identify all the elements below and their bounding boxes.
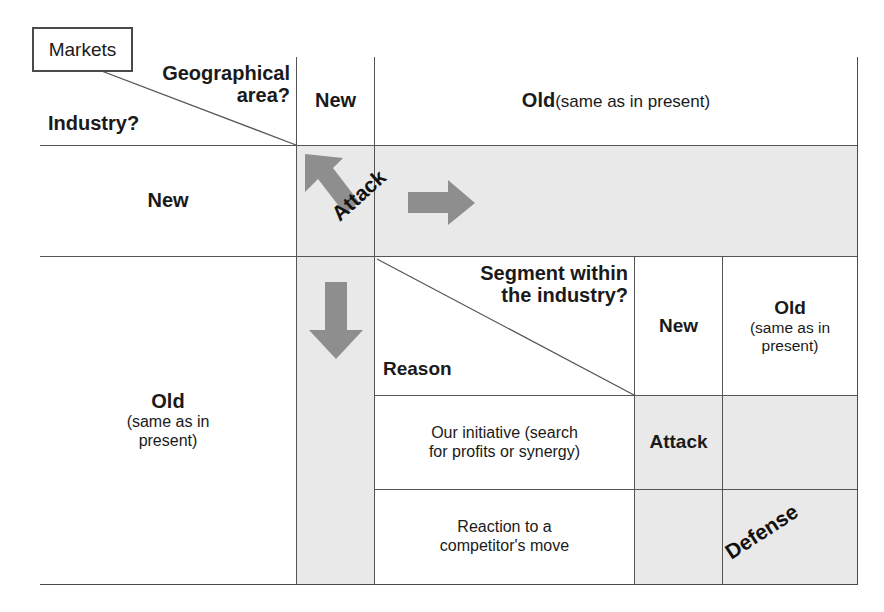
row-label-old-note-2: present) bbox=[127, 432, 210, 451]
sub-header-reason-label: Reason bbox=[383, 358, 553, 379]
sub-row-reaction: Reaction to a competitor's move bbox=[375, 490, 635, 584]
sub-header-col-old-note-2: present) bbox=[750, 337, 830, 355]
sub-header-segment-label: Segment within the industry? bbox=[432, 262, 628, 307]
row-label-old-bold: Old bbox=[127, 390, 210, 414]
sub-header-col-old-bold: Old bbox=[750, 297, 830, 319]
arrow-down-icon bbox=[308, 282, 364, 364]
header-col-new: New bbox=[297, 57, 375, 146]
markets-callout-box: Markets bbox=[32, 27, 133, 72]
markets-callout-label: Markets bbox=[49, 39, 117, 61]
arrow-right-icon bbox=[408, 180, 476, 230]
row-label-old: Old (same as in present) bbox=[40, 257, 297, 584]
reaction-line-1: Reaction to a bbox=[440, 518, 569, 537]
row-label-old-note-1: (same as in bbox=[127, 413, 210, 432]
defense-cell-lower-left bbox=[635, 490, 723, 584]
sub-row-our-initiative: Our initiative (search for profits or sy… bbox=[375, 396, 635, 490]
header-industry-label: Industry? bbox=[48, 112, 228, 134]
our-initiative-line-2: for profits or synergy) bbox=[429, 443, 580, 462]
markets-matrix-diagram: Geographical area? Industry? New Old(sam… bbox=[0, 0, 884, 612]
sub-header-col-new: New bbox=[635, 257, 723, 396]
reaction-line-2: competitor's move bbox=[440, 537, 569, 556]
header-col-old-bold: Old bbox=[522, 89, 555, 111]
header-col-old: Old(same as in present) bbox=[375, 57, 857, 146]
attack-cell-label: Attack bbox=[643, 431, 713, 453]
sub-header-col-old: Old (same as in present) bbox=[723, 257, 857, 396]
row-label-new: New bbox=[40, 146, 297, 257]
attack-cell: Attack bbox=[635, 396, 723, 490]
header-geographical-area-label: Geographical area? bbox=[108, 62, 290, 107]
defense-cell-upper-right bbox=[723, 396, 857, 490]
sub-header-col-old-note-1: (same as in bbox=[750, 319, 830, 337]
our-initiative-line-1: Our initiative (search bbox=[429, 424, 580, 443]
header-col-old-note: (same as in present) bbox=[555, 92, 710, 111]
